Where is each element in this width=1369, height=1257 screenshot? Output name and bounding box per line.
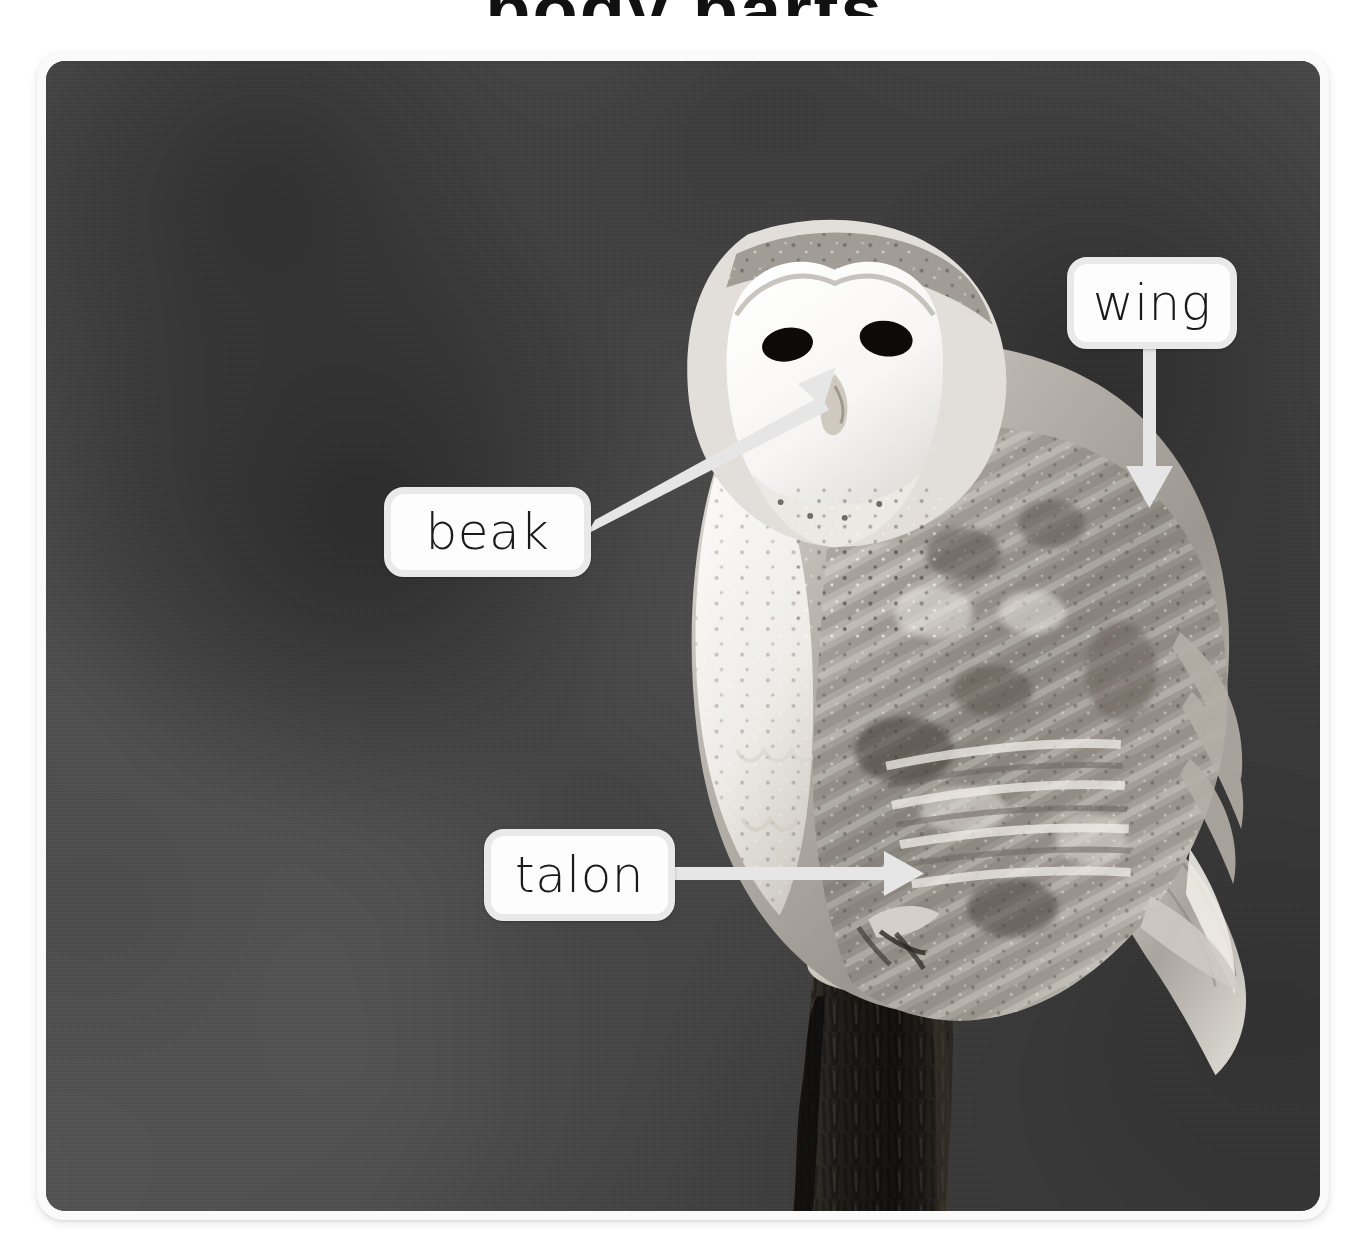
label-callout-wing[interactable]: wing	[1067, 257, 1237, 349]
photo-frame: wing beak talon	[37, 52, 1329, 1220]
page-title-cropped: body parts	[0, 0, 1369, 16]
owl-shoulder-speckles	[795, 484, 943, 642]
page-root: body parts	[0, 0, 1369, 1257]
owl-photograph: wing beak talon	[46, 61, 1320, 1211]
label-text-talon: talon	[515, 850, 644, 900]
label-callout-talon[interactable]: talon	[484, 829, 675, 921]
owl-figure	[46, 61, 1320, 1211]
label-text-wing: wing	[1093, 278, 1211, 328]
label-callout-beak[interactable]: beak	[384, 487, 591, 577]
owl-illustration	[46, 61, 1320, 1211]
label-text-beak: beak	[425, 507, 549, 557]
